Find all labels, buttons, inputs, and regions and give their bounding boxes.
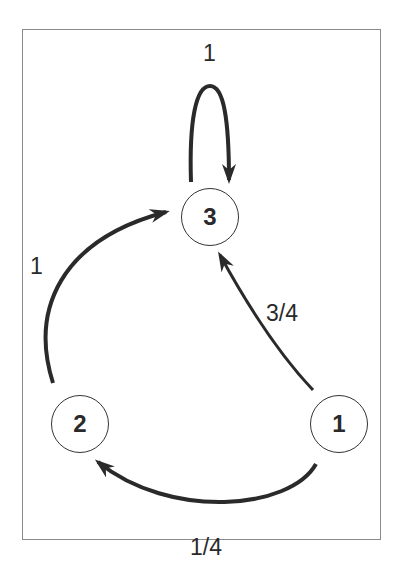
edge-label-1-to-3: 3/4: [266, 300, 298, 327]
node-3: 3: [181, 188, 239, 246]
edge-1-to-2: [98, 462, 316, 502]
node-1-label: 1: [332, 410, 345, 438]
node-2: 2: [51, 395, 109, 453]
node-2-label: 2: [73, 410, 86, 438]
diagram-canvas: 3 2 1 1 1 3/4 1/4: [0, 0, 403, 581]
edge-label-3-to-3: 1: [203, 40, 216, 67]
node-1: 1: [310, 395, 368, 453]
edge-label-2-to-3: 1: [30, 253, 43, 280]
edge-label-1-to-2: 1/4: [190, 534, 222, 561]
edge-3-to-3: [191, 86, 229, 182]
edge-2-to-3: [46, 212, 166, 383]
edges-layer: [0, 0, 403, 581]
node-3-label: 3: [203, 203, 216, 231]
